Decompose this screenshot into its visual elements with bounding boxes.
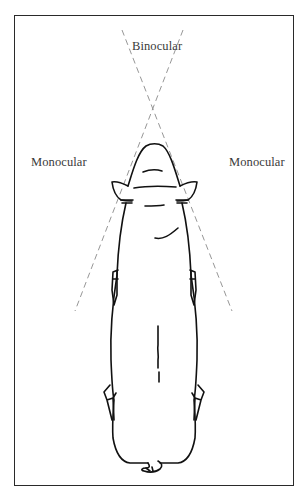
- snout-wrinkle-top: [143, 170, 162, 172]
- field-of-vision-diagram: Binocular Monocular Monocular: [0, 0, 305, 494]
- pig-head: [128, 144, 180, 186]
- pig-outline: [104, 144, 204, 472]
- spine-line: [158, 326, 159, 382]
- vision-line-right-eye: [122, 30, 232, 311]
- snout-wrinkle-mid: [134, 186, 176, 188]
- monocular-right-label: Monocular: [229, 156, 285, 169]
- neck-line: [145, 205, 164, 206]
- binocular-label: Binocular: [132, 40, 182, 53]
- body-left-side: [111, 203, 148, 463]
- pig-vision-illustration: [0, 0, 305, 494]
- body-right-side: [160, 203, 197, 463]
- shoulder-curve: [155, 228, 178, 238]
- monocular-left-label: Monocular: [31, 156, 87, 169]
- vision-line-left-eye: [75, 30, 183, 311]
